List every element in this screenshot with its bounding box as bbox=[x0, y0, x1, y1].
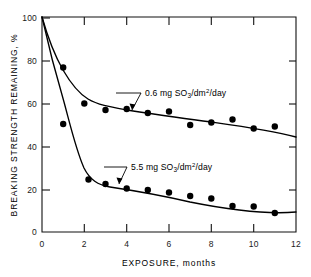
plot-frame bbox=[42, 17, 296, 232]
x-tick-label-8: 8 bbox=[209, 239, 214, 249]
data-point bbox=[102, 181, 108, 187]
upper-label-tail: /day bbox=[209, 88, 226, 98]
data-point bbox=[145, 110, 151, 116]
data-point bbox=[229, 116, 235, 122]
data-point bbox=[251, 125, 257, 131]
series-upper-0-6mg bbox=[42, 17, 296, 137]
y-tick-label-0: 0 bbox=[32, 227, 37, 237]
data-point bbox=[187, 122, 193, 128]
series-upper-curve bbox=[42, 17, 296, 137]
chart-canvas: 100 80 60 40 20 0 0 2 4 6 8 10 12 EXPOSU… bbox=[0, 0, 311, 277]
upper-series-label: 0.6 mg SO3/dm2/day bbox=[145, 88, 227, 99]
y-tick-label-60: 60 bbox=[27, 99, 37, 109]
data-point bbox=[102, 107, 108, 113]
x-tick-label-6: 6 bbox=[167, 239, 172, 249]
lower-label-head: 5.5 mg SO bbox=[131, 162, 174, 172]
data-point bbox=[272, 210, 278, 216]
y-tick-label-20: 20 bbox=[27, 185, 37, 195]
upper-label-head: 0.6 mg SO bbox=[145, 88, 188, 98]
y-axis-title: BREAKING STRENGTH REMAINING, % bbox=[9, 34, 19, 217]
upper-label-mid: /dm bbox=[191, 88, 206, 98]
data-point bbox=[229, 203, 235, 209]
data-point bbox=[208, 195, 214, 201]
data-point bbox=[208, 119, 214, 125]
chart-figure: 100 80 60 40 20 0 0 2 4 6 8 10 12 EXPOSU… bbox=[0, 0, 311, 277]
x-tick-label-12: 12 bbox=[291, 239, 301, 249]
data-point bbox=[60, 64, 66, 70]
y-tick-label-40: 40 bbox=[27, 142, 37, 152]
x-tick-label-10: 10 bbox=[249, 239, 259, 249]
data-point bbox=[145, 187, 151, 193]
series-upper-points bbox=[60, 64, 278, 131]
lower-label-tail: /day bbox=[195, 162, 212, 172]
y-tick-label-80: 80 bbox=[27, 56, 37, 66]
data-point bbox=[272, 123, 278, 129]
lower-callout-arrowhead bbox=[117, 178, 123, 185]
data-point bbox=[251, 203, 257, 209]
data-point bbox=[81, 100, 87, 106]
data-point bbox=[85, 176, 91, 182]
series-lower-curve bbox=[42, 17, 296, 213]
data-point bbox=[124, 185, 130, 191]
data-point bbox=[124, 106, 130, 112]
data-point bbox=[187, 193, 193, 199]
x-tick-label-0: 0 bbox=[40, 239, 45, 249]
data-point bbox=[166, 189, 172, 195]
x-axis-title: EXPOSURE, months bbox=[122, 258, 216, 268]
upper-callout-arrowhead bbox=[130, 104, 136, 111]
y-tick-labels: 100 80 60 40 20 0 bbox=[22, 13, 37, 237]
data-point bbox=[60, 121, 66, 127]
y-tick-label-100: 100 bbox=[22, 13, 37, 23]
lower-series-label: 5.5 mg SO3/dm2/day bbox=[131, 162, 213, 173]
x-tick-label-4: 4 bbox=[124, 239, 129, 249]
lower-label-mid: /dm bbox=[177, 162, 192, 172]
data-point bbox=[166, 108, 172, 114]
x-tick-label-2: 2 bbox=[82, 239, 87, 249]
x-tick-labels: 0 2 4 6 8 10 12 bbox=[40, 239, 301, 249]
